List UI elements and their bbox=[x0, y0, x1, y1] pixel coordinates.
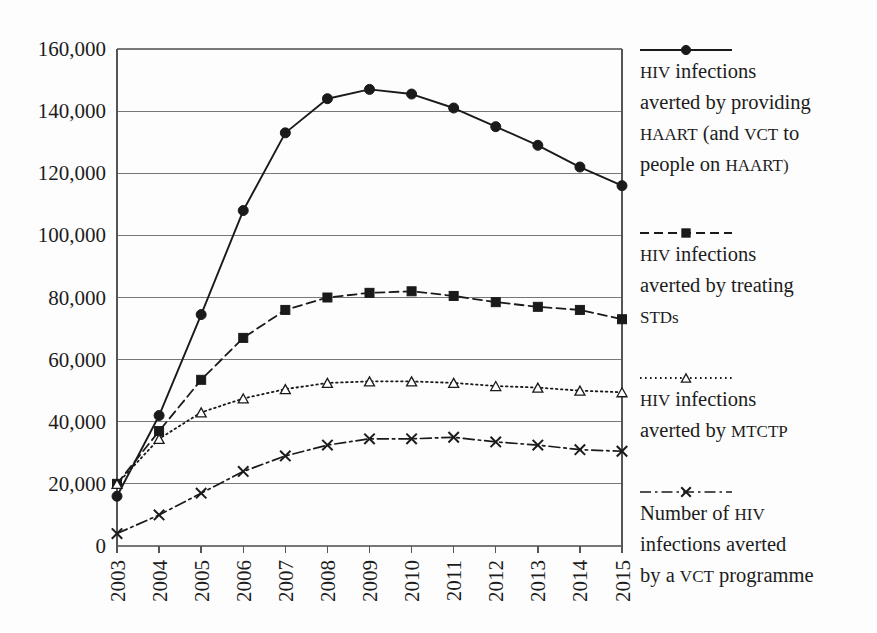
marker-cross bbox=[154, 510, 164, 520]
legend-mtctp[interactable]: HIV infectionsaverted by MTCTP bbox=[640, 374, 788, 442]
x-tick-label: 2009 bbox=[358, 560, 382, 602]
legend-vct[interactable]: Number of HIVinfections avertedby a VCT … bbox=[640, 487, 813, 587]
x-tick-label: 2005 bbox=[190, 560, 214, 602]
marker-filled-circle bbox=[196, 310, 206, 320]
marker-cross bbox=[196, 488, 206, 498]
marker-filled-circle bbox=[449, 103, 459, 113]
marker-cross bbox=[238, 466, 248, 476]
marker-filled-circle bbox=[322, 94, 332, 104]
marker-filled-square bbox=[449, 291, 458, 300]
y-tick-label: 140,000 bbox=[38, 99, 106, 123]
marker-filled-square bbox=[239, 333, 248, 342]
y-tick-label: 20,000 bbox=[48, 472, 106, 496]
legend-label-line: averted by MTCTP bbox=[640, 419, 788, 442]
y-tick-label: 60,000 bbox=[48, 348, 106, 372]
x-axis-ticks: 2003200420052006200720082009201020112012… bbox=[106, 546, 635, 602]
marker-filled-circle bbox=[112, 491, 122, 501]
marker-filled-circle bbox=[238, 206, 248, 216]
marker-filled-square bbox=[281, 305, 290, 314]
marker-filled-circle bbox=[280, 128, 290, 138]
marker-filled-square bbox=[407, 287, 416, 296]
legend-label-line: averted by providing bbox=[640, 91, 811, 114]
x-tick-label: 2013 bbox=[526, 560, 550, 602]
x-tick-label: 2003 bbox=[106, 560, 130, 602]
legend-label-line: HIV infections bbox=[640, 60, 756, 82]
legend-label-line: people on HAART) bbox=[640, 153, 789, 176]
marker-filled-square bbox=[682, 229, 690, 237]
marker-filled-circle bbox=[365, 84, 375, 94]
y-tick-label: 100,000 bbox=[38, 223, 106, 247]
marker-filled-circle bbox=[575, 162, 585, 172]
legend-label-line: infections averted bbox=[640, 533, 786, 555]
legend-label-line: STDs bbox=[640, 308, 679, 327]
x-tick-label: 2011 bbox=[442, 560, 466, 601]
marker-open-triangle bbox=[617, 388, 627, 397]
y-tick-label: 0 bbox=[96, 534, 107, 558]
marker-filled-circle bbox=[533, 140, 543, 150]
marker-filled-square bbox=[197, 375, 206, 384]
y-axis-ticks: 020,00040,00060,00080,000100,000120,0001… bbox=[38, 37, 106, 558]
marker-filled-square bbox=[575, 305, 584, 314]
legend-haart[interactable]: HIV infectionsaverted by providingHAART … bbox=[640, 45, 811, 176]
series-path bbox=[117, 437, 622, 533]
marker-filled-square bbox=[491, 298, 500, 307]
y-tick-label: 160,000 bbox=[38, 37, 106, 61]
marker-filled-square bbox=[323, 293, 332, 302]
legend-label-line: HAART (and VCT to bbox=[640, 122, 799, 145]
x-tick-label: 2010 bbox=[400, 560, 424, 602]
series-2 bbox=[113, 287, 627, 489]
x-tick-label: 2007 bbox=[274, 560, 298, 602]
marker-filled-circle bbox=[154, 411, 164, 421]
legend-label-line: averted by treating bbox=[640, 274, 794, 297]
marker-open-triangle bbox=[238, 394, 248, 403]
legend-label-line: by a VCT programme bbox=[640, 564, 813, 587]
chart-page: 020,00040,00060,00080,000100,000120,0001… bbox=[0, 0, 877, 633]
x-tick-label: 2015 bbox=[611, 560, 635, 602]
marker-open-triangle bbox=[681, 374, 690, 382]
marker-filled-circle bbox=[491, 122, 501, 132]
marker-open-triangle bbox=[196, 408, 206, 417]
line-chart: 020,00040,00060,00080,000100,000120,0001… bbox=[0, 0, 877, 633]
x-tick-label: 2014 bbox=[568, 560, 592, 603]
marker-filled-circle bbox=[681, 45, 690, 54]
marker-filled-circle bbox=[617, 181, 627, 191]
y-tick-label: 40,000 bbox=[48, 410, 106, 434]
x-tick-label: 2008 bbox=[316, 560, 340, 602]
legend-stds[interactable]: HIV infectionsaverted by treatingSTDs bbox=[640, 229, 794, 327]
marker-filled-square bbox=[365, 288, 374, 297]
marker-filled-circle bbox=[407, 89, 417, 99]
y-tick-label: 80,000 bbox=[48, 286, 106, 310]
y-tick-label: 120,000 bbox=[38, 161, 106, 185]
x-tick-label: 2012 bbox=[484, 560, 508, 602]
legend: HIV infectionsaverted by providingHAART … bbox=[640, 45, 813, 587]
legend-label-line: HIV infections bbox=[640, 388, 756, 410]
legend-label-line: HIV infections bbox=[640, 243, 756, 265]
marker-filled-square bbox=[618, 315, 627, 324]
x-tick-label: 2006 bbox=[232, 560, 256, 602]
series-path bbox=[117, 381, 622, 484]
marker-filled-square bbox=[533, 302, 542, 311]
marker-cross bbox=[280, 451, 290, 461]
legend-label-line: Number of HIV bbox=[640, 502, 765, 524]
series-4 bbox=[112, 432, 627, 539]
x-tick-label: 2004 bbox=[148, 560, 172, 603]
